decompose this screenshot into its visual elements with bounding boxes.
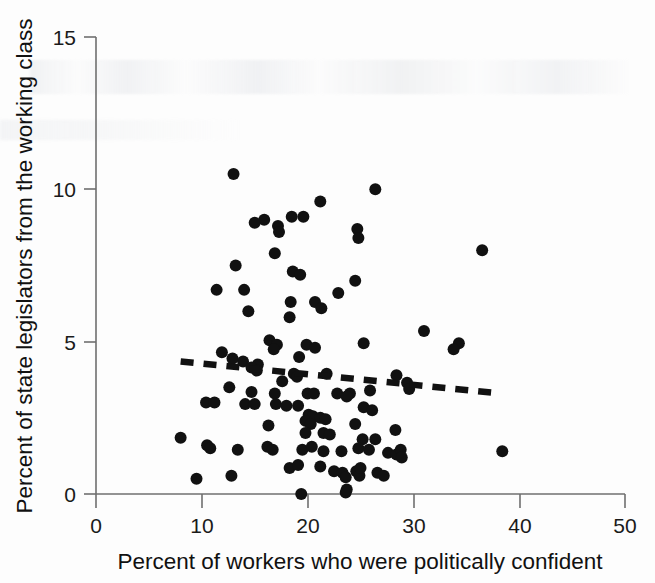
- scatter-point: [320, 413, 332, 425]
- scatter-point: [448, 343, 460, 355]
- y-tick-label-5: 5: [64, 331, 76, 354]
- scatter-point: [216, 346, 228, 358]
- scatter-point: [273, 226, 285, 238]
- scatter-point: [204, 442, 216, 454]
- x-tick-label-30: 30: [402, 514, 425, 537]
- scatter-point: [369, 433, 381, 445]
- x-tick-label-50: 50: [613, 514, 636, 537]
- scatter-point: [209, 397, 221, 409]
- scatter-point: [332, 287, 344, 299]
- scatter-point: [262, 419, 274, 431]
- scatter-point: [378, 470, 390, 482]
- plot-canvas: 0 5 10 15 0 10 20 30 40 50 Percent of wo…: [0, 0, 655, 583]
- scatter-point: [191, 473, 203, 485]
- scatter-point: [267, 444, 279, 456]
- scatter-point: [314, 461, 326, 473]
- scatter-point: [324, 429, 336, 441]
- scatter-point: [284, 311, 296, 323]
- scatter-point: [352, 232, 364, 244]
- scatter-point: [293, 351, 305, 363]
- scatter-point: [242, 305, 254, 317]
- scatter-point: [228, 168, 240, 180]
- x-axis-title: Percent of workers who were politically …: [117, 549, 603, 574]
- scatter-point: [285, 296, 297, 308]
- scatter-point: [496, 445, 508, 457]
- scatter-point: [246, 386, 258, 398]
- scatter-points-group: [175, 168, 509, 500]
- x-tick-labels: 0 10 20 30 40 50: [90, 514, 637, 537]
- scatter-point: [476, 244, 488, 256]
- scatter-point: [341, 483, 353, 495]
- scatter-point: [396, 451, 408, 463]
- scatter-point: [306, 441, 318, 453]
- scatter-point: [280, 400, 292, 412]
- scatter-point: [286, 211, 298, 223]
- scatter-point: [211, 284, 223, 296]
- scatter-point: [276, 375, 288, 387]
- scatter-point: [315, 302, 327, 314]
- scatter-point: [230, 260, 242, 272]
- scatter-point: [349, 418, 361, 430]
- y-tick-label-0: 0: [64, 483, 76, 506]
- scatter-point: [317, 445, 329, 457]
- x-tick-label-20: 20: [296, 514, 319, 537]
- scatter-point: [225, 470, 237, 482]
- scatter-point: [232, 444, 244, 456]
- y-tick-label-15: 15: [53, 26, 76, 49]
- scatter-point: [363, 444, 375, 456]
- scatter-point: [238, 284, 250, 296]
- scatter-point: [292, 459, 304, 471]
- scatter-point: [226, 352, 238, 364]
- scatter-point: [349, 275, 361, 287]
- scatter-point: [270, 398, 282, 410]
- scatter-point: [309, 342, 321, 354]
- x-tick-label-40: 40: [508, 514, 531, 537]
- scatter-point: [390, 369, 402, 381]
- scatter-point: [294, 269, 306, 281]
- scatter-point: [268, 343, 280, 355]
- scatter-point: [369, 183, 381, 195]
- scatter-point: [249, 398, 261, 410]
- x-tick-label-10: 10: [190, 514, 213, 537]
- scatter-point: [358, 337, 370, 349]
- x-tick-label-0: 0: [90, 514, 102, 537]
- y-tick-label-10: 10: [53, 178, 76, 201]
- scatter-point: [308, 387, 320, 399]
- scatter-point: [418, 325, 430, 337]
- scatter-point: [352, 442, 364, 454]
- scatter-point: [269, 387, 281, 399]
- scatter-point: [335, 445, 347, 457]
- y-tick-labels: 0 5 10 15: [53, 26, 76, 506]
- scatter-point: [314, 196, 326, 208]
- scatter-point: [175, 432, 187, 444]
- scatter-point: [295, 488, 307, 500]
- scatter-point: [269, 247, 281, 259]
- scatter-plot-figure: 0 5 10 15 0 10 20 30 40 50 Percent of wo…: [0, 0, 655, 583]
- scatter-point: [299, 427, 311, 439]
- scatter-point: [341, 391, 353, 403]
- y-axis-title: Percent of state legislators from the wo…: [12, 18, 37, 513]
- scatter-point: [292, 400, 304, 412]
- scatter-point: [364, 384, 376, 396]
- axes-group: [84, 37, 625, 508]
- scatter-point: [340, 471, 352, 483]
- scatter-point: [223, 381, 235, 393]
- scatter-point: [389, 424, 401, 436]
- scatter-point: [249, 217, 261, 229]
- scatter-point: [297, 211, 309, 223]
- scatter-point: [355, 462, 367, 474]
- scatter-point: [366, 404, 378, 416]
